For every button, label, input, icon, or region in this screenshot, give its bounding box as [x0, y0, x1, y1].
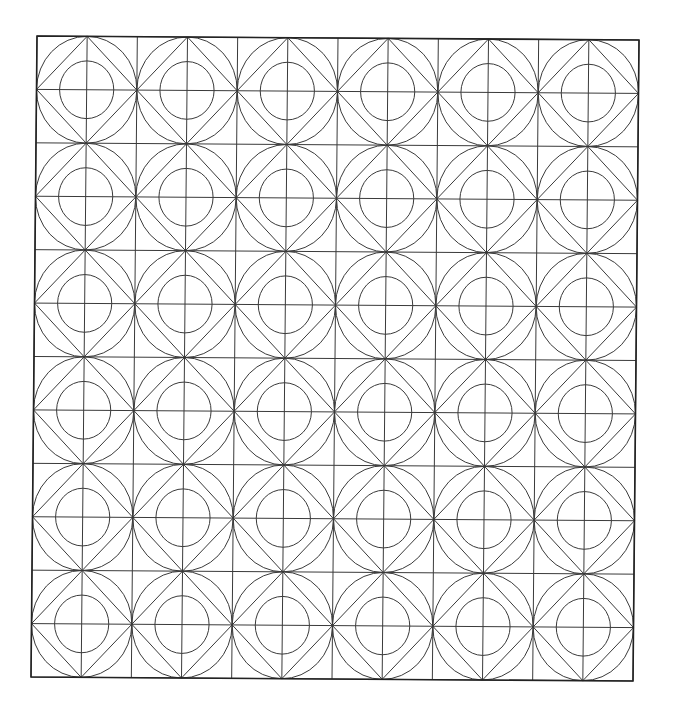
geometric-tile-pattern	[0, 0, 673, 712]
coloring-page	[0, 0, 673, 712]
pattern-grid	[31, 36, 639, 681]
